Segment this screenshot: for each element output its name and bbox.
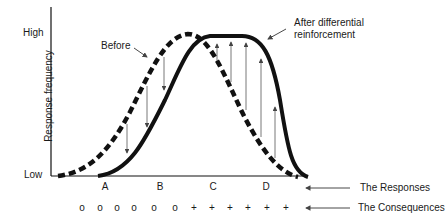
consequence-symbol: +	[191, 202, 197, 213]
after-curve	[98, 36, 308, 177]
consequence-symbol: +	[227, 202, 233, 213]
after-label-line2: reinforcement	[294, 29, 355, 40]
consequence-symbol: o	[131, 202, 137, 213]
consequence-symbol: o	[172, 202, 178, 213]
response-letter-a: A	[102, 181, 109, 192]
consequence-symbol: +	[209, 202, 215, 213]
responses-label: The Responses	[360, 182, 430, 193]
consequence-symbol: +	[245, 202, 251, 213]
consequence-symbol: +	[264, 202, 270, 213]
response-letter-b: B	[157, 181, 164, 192]
consequence-symbol: +	[283, 202, 289, 213]
after-pointer-arrow	[268, 29, 286, 39]
consequence-symbol: o	[114, 202, 120, 213]
consequences-label: The Consequences	[358, 202, 445, 213]
consequence-symbol: o	[151, 202, 157, 213]
consequence-symbol: o	[79, 202, 85, 213]
consequence-symbol: o	[97, 202, 103, 213]
before-pointer-arrow	[134, 48, 147, 57]
before-curve	[58, 34, 298, 177]
response-letter-c: C	[209, 181, 216, 192]
low-label: Low	[24, 169, 42, 180]
y-axis-label: Response frequency	[43, 50, 54, 142]
response-letter-d: D	[262, 181, 269, 192]
shift-arrows	[127, 42, 275, 158]
before-label: Before	[101, 40, 130, 51]
after-label-line1: After differential	[294, 17, 364, 28]
high-label: High	[23, 27, 44, 38]
